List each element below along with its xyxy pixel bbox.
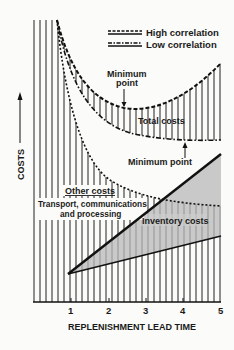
x-tick-5: 5 (218, 305, 224, 316)
annotation-transport-line2: and processing (60, 209, 121, 219)
legend: High correlation Low correlation (108, 27, 219, 50)
annotation-inventory-costs: Inventory costs (142, 216, 209, 226)
x-tick-2: 2 (106, 305, 111, 316)
chart: High correlation Low correlation Minimum… (0, 0, 234, 350)
x-axis-label: REPLENISHMENT LEAD TIME (68, 322, 196, 332)
y-axis-label: COSTS (16, 149, 26, 180)
legend-low-correlation: Low correlation (146, 39, 217, 50)
legend-high-correlation: High correlation (146, 27, 219, 38)
annotation-minimum-point-1-line2: point (116, 78, 138, 88)
x-tick-4: 4 (180, 305, 186, 316)
annotation-transport-line1: Transport, communications (38, 199, 147, 209)
x-tick-1: 1 (68, 305, 74, 316)
x-tick-3: 3 (143, 305, 148, 316)
annotation-total-costs: Total costs (138, 116, 185, 126)
annotation-other-costs: Other costs (65, 186, 115, 196)
annotation-minimum-point-2: Minimum point (128, 157, 192, 167)
